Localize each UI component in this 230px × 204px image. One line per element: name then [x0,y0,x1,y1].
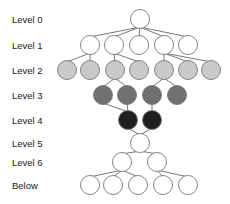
level-labels: Level 0Level 1Level 2Level 3Level 4Level… [12,14,43,191]
edge [114,27,140,37]
tree-node [58,61,77,80]
tree-node [130,61,149,80]
tree-node [131,10,150,29]
tree-node [106,61,125,80]
tree-level-diagram: Level 0Level 1Level 2Level 3Level 4Level… [0,0,230,204]
tree-node [131,134,150,153]
tree-node [119,111,138,130]
edge [140,27,164,37]
tree-node [179,36,198,55]
tree-node [105,36,124,55]
level-label: Level 1 [12,40,43,51]
tree-node [113,153,132,172]
tree-node [179,176,198,195]
level-label: Level 0 [12,14,43,25]
tree-node [118,86,137,105]
nodes [58,10,221,195]
tree-node [155,61,174,80]
tree-node [81,36,100,55]
tree-node [104,176,123,195]
level-label: Level 2 [12,65,43,76]
tree-node [154,176,173,195]
tree-node [81,61,100,80]
level-label: Below [12,180,38,191]
tree-node [81,176,100,195]
edge [67,53,90,62]
edge [164,53,188,62]
tree-node [179,61,198,80]
tree-node [94,86,113,105]
level-label: Level 6 [12,157,43,168]
tree-node [168,86,187,105]
level-label: Level 4 [12,115,43,126]
tree-node [155,36,174,55]
level-label: Level 5 [12,138,43,149]
tree-node [143,86,162,105]
tree-node [143,111,162,130]
level-label: Level 3 [12,90,43,101]
tree-node [130,36,149,55]
tree-node [202,61,221,80]
tree-node [148,153,167,172]
tree-node [129,176,148,195]
